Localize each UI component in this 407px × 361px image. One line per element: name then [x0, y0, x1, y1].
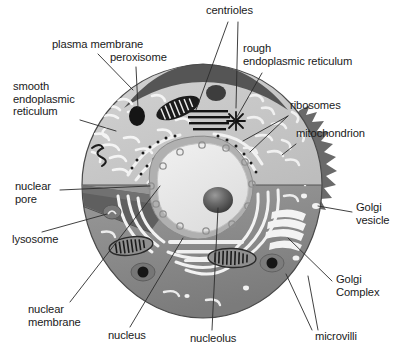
- label-ribosomes: ribosomes: [290, 99, 341, 112]
- centriole-2: [227, 112, 245, 130]
- label-mitochondrion: mitochondrion: [296, 127, 365, 140]
- label-nuclear-membrane: nuclear membrane: [28, 303, 81, 328]
- label-nucleolus: nucleolus: [190, 332, 236, 345]
- peroxisome: [129, 106, 145, 126]
- label-golgi-complex: Golgi Complex: [336, 273, 379, 298]
- label-rough-er: rough endoplasmic reticulum: [243, 42, 352, 67]
- cell-diagram-figure: centrioles plasma membrane peroxisome ro…: [0, 0, 407, 361]
- label-peroxisome: peroxisome: [110, 51, 167, 64]
- label-centrioles: centrioles: [206, 4, 253, 17]
- vesicle-lower-right: [260, 254, 284, 272]
- label-microvilli: microvilli: [315, 330, 357, 343]
- vesicle-upper-right: [206, 85, 226, 101]
- label-lysosome: lysosome: [12, 233, 58, 246]
- lysosome: [131, 263, 155, 281]
- label-smooth-er: smooth endoplasmic reticulum: [13, 80, 75, 118]
- label-nucleus: nucleus: [108, 329, 146, 342]
- label-nuclear-pore: nuclear pore: [15, 180, 51, 205]
- label-plasma-membrane: plasma membrane: [52, 38, 143, 51]
- leader-microvilli-b: [308, 276, 318, 330]
- label-golgi-vesicle: Golgi vesicle: [356, 201, 390, 226]
- leader-microvilli-a: [286, 274, 312, 330]
- nuclear-pore: [103, 205, 121, 219]
